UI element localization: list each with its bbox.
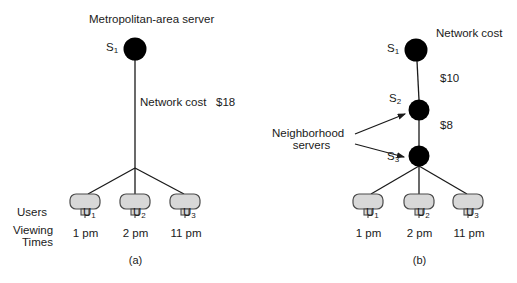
panel-a-user-label-3: U3 (183, 206, 196, 220)
panel-a-server-label-sub: 1 (114, 46, 118, 55)
panel-b-server-label-s1-text: S (387, 42, 395, 54)
panel-b-user-label-1: U1 (366, 206, 379, 220)
panel-b-time-2: 2 pm (404, 227, 435, 239)
panel-b-server-label-s2: S2 (389, 92, 401, 106)
network-diagram-canvas (0, 0, 517, 283)
panel-b-neighborhood-label-line1: Neighborhood (272, 127, 344, 139)
panel-b-server-label-s3: S3 (387, 150, 399, 164)
panel-b-cost-s2-s3: $8 (440, 119, 453, 131)
panel-b-user-label-2: U2 (417, 206, 430, 220)
panel-a-server-label: S1 (106, 41, 118, 55)
panel-a-user-label-1: U1 (83, 206, 96, 220)
panel-b-time-1: 1 pm (353, 227, 384, 239)
panel-b-link-s1-s2 (417, 61, 419, 100)
panel-b-server-label-s3-text: S (387, 150, 395, 162)
panel-a-caption: (a) (120, 255, 151, 267)
panel-b-cost-s1-s2: $10 (440, 72, 459, 84)
figure-root: Metropolitan-area server S1 Network cost… (0, 0, 517, 283)
panel-b-time-3: 11 pm (452, 227, 486, 239)
panel-a-viewing-label-line1: Viewing (13, 224, 53, 236)
panel-a-title: Metropolitan-area server (89, 13, 214, 25)
panel-b-server-label-s2-sub: 2 (397, 97, 401, 106)
panel-b-user-label-1-sub: 1 (374, 211, 378, 220)
panel-b-server-node-s1 (405, 39, 428, 62)
panel-b-annotation-arrow-s2 (355, 114, 405, 134)
panel-a-server-node-s1 (124, 38, 147, 61)
panel-b-link-user-1 (371, 166, 419, 194)
panel-b-user-label-3: U3 (466, 206, 479, 220)
panel-a-time-1: 1 pm (70, 227, 101, 239)
panel-b-caption: (b) (404, 255, 435, 267)
panel-b-server-label-s1-sub: 1 (395, 47, 399, 56)
panel-a-user-label-3-sub: 3 (191, 211, 195, 220)
panel-a-cost-label: Network cost $18 (140, 96, 235, 108)
panel-a-users-label: Users (17, 206, 47, 218)
panel-a-viewing-label-line2: Times (22, 236, 53, 248)
panel-b-link-user-3 (419, 166, 467, 194)
panel-b-user-label-3-sub: 3 (474, 211, 478, 220)
panel-b-neighborhood-label-line2: servers (272, 139, 351, 151)
panel-b-user-label-2-sub: 2 (425, 211, 429, 220)
panel-b-server-label-s1: S1 (387, 42, 399, 56)
panel-a-link-user-3 (135, 168, 184, 194)
panel-b-server-label-s2-text: S (389, 92, 397, 104)
panel-a-time-3: 11 pm (169, 227, 203, 239)
panel-b-server-node-s3 (409, 146, 430, 167)
panel-a-user-label-2: U2 (133, 206, 146, 220)
panel-a-user-label-2-sub: 2 (141, 211, 145, 220)
panel-a-time-2: 2 pm (120, 227, 151, 239)
panel-b-network-cost-label: Network cost (436, 27, 502, 39)
panel-a-user-label-1-sub: 1 (91, 211, 95, 220)
panel-b-server-node-s2 (409, 100, 430, 121)
panel-b-server-label-s3-sub: 3 (395, 155, 399, 164)
panel-a-link-user-1 (88, 168, 135, 194)
panel-a-server-label-text: S (106, 41, 114, 53)
